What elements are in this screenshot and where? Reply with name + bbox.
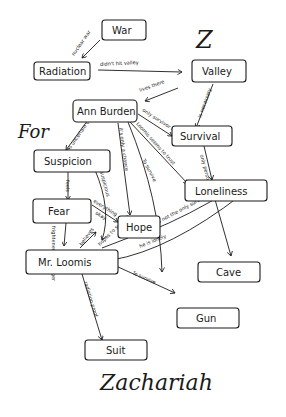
node-ann-burden: Ann Burden — [73, 100, 137, 122]
svg-text:Suit: Suit — [106, 345, 125, 356]
edge-label-valley-survival: is necessary — [196, 87, 213, 119]
heading-z: Z — [195, 26, 214, 54]
node-gun: Gun — [177, 308, 239, 328]
node-fear: Fear — [33, 199, 91, 223]
edge-label-loomis-suit: radiation proof — [82, 281, 100, 319]
edge-valley-ann — [145, 88, 178, 101]
svg-text:Hope: Hope — [126, 222, 152, 233]
node-survival: Survival — [172, 126, 232, 146]
edge-radiation-valley — [98, 70, 182, 72]
svg-text:Valley: Valley — [202, 66, 232, 77]
svg-text:Survival: Survival — [180, 131, 220, 142]
edge-label-ann-suspicion: is uncertain of — [66, 118, 92, 151]
node-valley: Valley — [192, 60, 246, 82]
svg-text:Gun: Gun — [196, 313, 216, 324]
edge-label-ann-gun: To survive — [141, 157, 159, 183]
edge-label-war-radiation: nuclear war — [70, 28, 92, 56]
node-cave: Cave — [198, 262, 260, 282]
node-hope: Hope — [118, 216, 160, 238]
node-war: War — [102, 20, 146, 40]
svg-text:Fear: Fear — [48, 206, 70, 217]
svg-text:Suspicion: Suspicion — [44, 156, 92, 167]
edge-label-ann-hope: it's only a chance — [117, 127, 130, 171]
node-suit: Suit — [85, 340, 147, 360]
edge-war-radiation — [82, 40, 100, 58]
node-radiation: Radiation — [34, 62, 90, 80]
svg-text:Radiation: Radiation — [39, 66, 86, 77]
concept-map: Z For Zachariah nuclear war didn't hit v… — [0, 0, 286, 417]
node-loneliness: Loneliness — [185, 180, 267, 201]
edge-label-suspicion-fear: feels — [65, 180, 71, 192]
edge-fear-loomis — [64, 223, 66, 246]
heading-for: For — [17, 121, 50, 142]
node-mr-loomis: Mr. Loomis — [26, 250, 118, 274]
svg-text:Ann Burden: Ann Burden — [77, 106, 136, 117]
heading-title: Zachariah — [99, 370, 213, 395]
svg-text:Loneliness: Loneliness — [195, 186, 247, 197]
edge-label-valley-ann: lives there — [138, 78, 165, 93]
svg-text:War: War — [112, 25, 132, 36]
svg-text:Mr. Loomis: Mr. Loomis — [38, 257, 92, 268]
svg-text:Cave: Cave — [216, 267, 241, 278]
node-suspicion: Suspicion — [34, 150, 110, 172]
edge-label-radiation-valley: didn't hit valley — [100, 59, 139, 68]
edge-label-loomis-gun: To survive — [131, 269, 157, 285]
